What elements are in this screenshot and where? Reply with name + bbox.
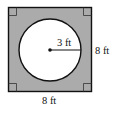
center-point [48,48,52,52]
right-side-label: 8 ft [95,45,109,56]
diagram: 3 ft 8 ft 8 ft [0,0,116,117]
bottom-side-label: 8 ft [42,95,56,106]
radius-label: 3 ft [57,37,71,48]
